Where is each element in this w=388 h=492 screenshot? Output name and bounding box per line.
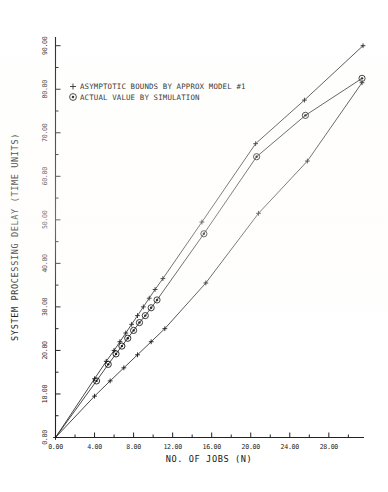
- y-tick-label: 80.00: [41, 80, 49, 99]
- data-point-marker-upper_bound: [129, 322, 134, 327]
- data-point-marker-upper_bound: [135, 313, 140, 318]
- data-point-marker-simulation: [119, 343, 125, 349]
- series-line-upper_bound: [56, 46, 364, 438]
- data-point-marker-simulation: [136, 319, 142, 325]
- x-tick-label: 8.00: [126, 443, 141, 451]
- chart-figure: 0.004.008.0012.0016.0020.0024.0028.00 0.…: [0, 0, 388, 492]
- legend-marker-plus-icon: [70, 84, 76, 90]
- data-point-marker-upper_bound: [147, 296, 152, 301]
- y-tick-label: 10.00: [41, 384, 49, 403]
- data-point-marker-simulation: [130, 327, 136, 333]
- data-series-group: [53, 43, 365, 440]
- x-tick-label: 12.00: [163, 443, 182, 451]
- data-point-marker-simulation: [105, 361, 111, 367]
- data-point-marker-upper_bound: [141, 305, 146, 310]
- legend: ASYMPTOTIC BOUNDS BY APPROX MODEL #1 ACT…: [70, 82, 246, 102]
- data-point-marker-simulation: [148, 305, 154, 311]
- y-tick-label: 20.00: [41, 341, 49, 360]
- y-axis-title: SYSTEM PROCESSING DELAY (TIME UNITS): [10, 133, 20, 341]
- x-axis-title: NO. OF JOBS (N): [166, 454, 253, 464]
- x-tick-label-group: 0.004.008.0012.0016.0020.0024.0028.00: [48, 443, 338, 451]
- y-tick-label: 50.00: [41, 210, 49, 229]
- x-tick-label: 16.00: [203, 443, 222, 451]
- legend-label-upper-bound: ASYMPTOTIC BOUNDS BY APPROX MODEL #1: [80, 82, 246, 91]
- data-point-marker-simulation: [253, 154, 259, 160]
- plot-canvas: 0.004.008.0012.0016.0020.0024.0028.00 0.…: [0, 0, 388, 492]
- x-tick-label: 0.00: [48, 443, 63, 451]
- x-tick-label: 4.00: [87, 443, 102, 451]
- data-point-marker-simulation: [302, 112, 308, 118]
- y-tick-label: 30.00: [41, 297, 49, 316]
- y-tick-label-group: 0.0010.0020.0030.0040.0050.0060.0070.008…: [41, 36, 49, 445]
- y-tick-label: 40.00: [41, 254, 49, 273]
- y-tick-group: [56, 46, 61, 438]
- data-point-marker-simulation: [125, 335, 131, 341]
- legend-label-simulation: ACTUAL VALUE BY SIMULATION: [80, 93, 200, 102]
- data-point-marker-simulation: [154, 297, 160, 303]
- x-tick-label: 20.00: [242, 443, 261, 451]
- x-tick-group: [56, 433, 349, 438]
- data-point-marker-simulation: [201, 231, 207, 237]
- x-tick-label: 28.00: [320, 443, 339, 451]
- y-tick-label: 60.00: [41, 167, 49, 186]
- series-line-simulation: [56, 78, 363, 437]
- series-line-lower_bound: [56, 83, 363, 438]
- data-point-marker-simulation: [113, 351, 119, 357]
- y-tick-label: 90.00: [41, 36, 49, 55]
- y-tick-label: 0.00: [41, 430, 49, 445]
- legend-marker-circle-icon: [70, 94, 77, 101]
- data-point-marker-simulation: [142, 313, 148, 319]
- data-point-marker-upper_bound: [123, 331, 128, 336]
- y-tick-label: 70.00: [41, 123, 49, 142]
- x-tick-label: 24.00: [281, 443, 300, 451]
- data-point-marker-upper_bound: [200, 220, 205, 225]
